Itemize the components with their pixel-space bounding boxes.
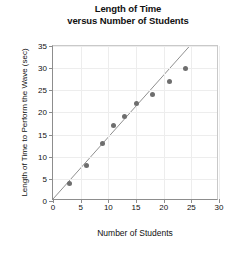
x-axis-label: Number of Students — [52, 228, 218, 238]
gridline-horizontal — [53, 135, 217, 136]
y-tick-label: 20 — [38, 108, 47, 117]
x-tick-label: 10 — [104, 203, 113, 212]
gridline-vertical — [219, 46, 220, 199]
gridline-vertical — [191, 46, 192, 199]
gridline-horizontal — [53, 68, 217, 69]
y-tick-mark — [49, 135, 53, 136]
x-tick-label: 30 — [215, 203, 224, 212]
data-point — [167, 79, 172, 84]
y-axis-label: Length of Time to Perform the Wave (sec) — [20, 35, 29, 211]
y-tick-label: 15 — [38, 130, 47, 139]
x-tick-label: 20 — [159, 203, 168, 212]
gridline-vertical — [136, 46, 137, 199]
gridline-horizontal — [53, 90, 217, 91]
chart-container: Length of Time versus Number of Students… — [0, 0, 230, 255]
chart-title: Length of Time versus Number of Students — [30, 3, 226, 26]
y-tick-label: 25 — [38, 86, 47, 95]
x-tick-label: 15 — [132, 203, 141, 212]
y-tick-mark — [49, 90, 53, 91]
chart-title-line-2: versus Number of Students — [30, 15, 226, 27]
y-tick-mark — [49, 68, 53, 69]
chart-title-line-1: Length of Time — [30, 3, 226, 15]
y-tick-label: 10 — [38, 152, 47, 161]
gridline-vertical — [108, 46, 109, 199]
gridline-horizontal — [53, 157, 217, 158]
data-point — [84, 163, 89, 168]
y-tick-mark — [49, 112, 53, 113]
gridline-horizontal — [53, 112, 217, 113]
data-point — [183, 66, 188, 71]
plot-area: 05101520253035051015202530 — [52, 45, 218, 200]
x-tick-label: 5 — [78, 203, 82, 212]
y-tick-mark — [49, 157, 53, 158]
gridline-horizontal — [53, 46, 217, 47]
gridline-horizontal — [53, 179, 217, 180]
y-tick-label: 30 — [38, 64, 47, 73]
y-tick-mark — [49, 46, 53, 47]
data-point — [134, 101, 139, 106]
y-tick-label: 0 — [43, 197, 47, 206]
data-point — [67, 181, 72, 186]
y-tick-mark — [49, 179, 53, 180]
gridline-vertical — [81, 46, 82, 199]
x-tick-label: 25 — [187, 203, 196, 212]
gridline-vertical — [164, 46, 165, 199]
y-tick-label: 5 — [43, 174, 47, 183]
y-tick-label: 35 — [38, 42, 47, 51]
x-tick-label: 0 — [51, 203, 55, 212]
